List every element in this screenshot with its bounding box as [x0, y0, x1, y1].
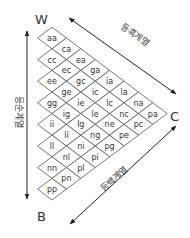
cell-label: gc: [76, 77, 85, 86]
cell-label: pc: [134, 120, 143, 129]
cell-label: ne: [105, 120, 115, 129]
cell-label: ea: [76, 56, 86, 65]
cell-label: nl: [63, 153, 70, 162]
cell-label: ca: [62, 45, 71, 54]
corner-label-color: C: [170, 109, 179, 124]
cell-label: ia: [106, 77, 113, 86]
cell-label: ng: [90, 131, 100, 140]
cell-label: ll: [50, 142, 54, 151]
corner-label-white: W: [35, 12, 48, 27]
cell-label: pe: [119, 131, 129, 140]
cell-label: ii: [50, 120, 54, 129]
diagram-canvas: W C B 등흑계열 등순계열 등백계열 aacacceaeceegagcgeg…: [0, 0, 190, 238]
cell-label: pa: [148, 110, 158, 119]
cell-label: lc: [106, 99, 113, 108]
cell-label: ge: [61, 88, 71, 97]
cell-label: ec: [62, 66, 71, 75]
ostwald-triangle-diagram: W C B 등흑계열 등순계열 등백계열 aacacceaeceegagcgeg…: [0, 0, 190, 238]
axis-label-left: 등순계열: [14, 96, 25, 128]
cell-label: ie: [77, 99, 84, 108]
cell-label: ni: [77, 142, 84, 151]
cell-grid: aacacceaeceegagcgeggiaicieigiilalclelgli…: [38, 27, 168, 200]
cell-label: le: [92, 110, 99, 119]
cell-label: nc: [119, 110, 128, 119]
cell-label: pp: [47, 185, 57, 194]
cell-label: ga: [90, 66, 100, 75]
cell-label: pn: [61, 174, 71, 183]
axis-label-top: 등흑계열: [119, 21, 152, 48]
cell-label: li: [64, 131, 68, 140]
axis-label-bottom: 등백계열: [98, 164, 129, 194]
corner-label-black: B: [37, 209, 46, 224]
cell-label: pg: [105, 142, 115, 151]
cell-label: ig: [63, 110, 70, 119]
cell-label: aa: [47, 34, 57, 43]
cell-label: ee: [47, 77, 57, 86]
cell-label: na: [133, 99, 143, 108]
cell-label: pl: [77, 164, 84, 173]
cell-label: nn: [47, 164, 57, 173]
cell-label: la: [120, 88, 127, 97]
cell-label: lg: [77, 120, 84, 129]
cell-label: cc: [48, 56, 57, 65]
cell-label: pi: [92, 153, 99, 162]
cell-label: ic: [92, 88, 99, 97]
cell-label: gg: [47, 99, 57, 108]
